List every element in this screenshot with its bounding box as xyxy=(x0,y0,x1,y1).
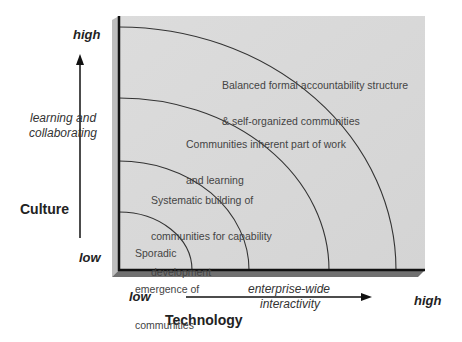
level-3-line: and learning xyxy=(186,174,346,186)
level-4-line: & self-organized communities xyxy=(222,115,408,127)
culture-arrow-head xyxy=(76,54,84,65)
y-axis-low-label: low xyxy=(79,251,101,264)
level-2-line: development xyxy=(151,266,272,278)
y-axis-dimension-line1: learning and xyxy=(30,112,96,124)
level-2-line: communities for capability xyxy=(151,230,272,242)
level-4-label: Balanced formal accountability structure… xyxy=(222,55,408,151)
level-1-line: communities xyxy=(135,319,199,331)
y-axis-title: Culture xyxy=(20,202,69,216)
diagram-canvas: high learning and collaborating Culture … xyxy=(0,0,462,342)
level-4-line: Balanced formal accountability structure xyxy=(222,79,408,91)
y-axis-high-label: high xyxy=(73,28,100,41)
y-axis-dimension-line2: collaborating xyxy=(29,127,97,139)
x-axis-high-label: high xyxy=(414,294,441,307)
technology-arrow-head xyxy=(361,293,372,301)
